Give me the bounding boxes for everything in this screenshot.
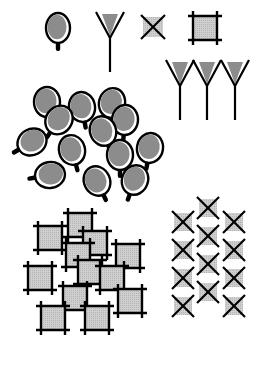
x-square-icon: [141, 15, 165, 39]
x-square-icon: [197, 281, 219, 303]
x-square-icon: [172, 267, 194, 289]
bead-icon: [25, 160, 67, 192]
x-square-icon: [172, 239, 194, 261]
x-square-icon: [223, 239, 245, 261]
x-square-grid: [172, 197, 245, 317]
diagram-canvas: [0, 0, 267, 365]
x-square-icon: [223, 295, 245, 317]
antibody-icon: [221, 60, 249, 120]
antibody-icon: [193, 60, 221, 120]
frame-square-cluster: [23, 208, 147, 335]
x-square-icon: [172, 211, 194, 233]
frame-square-icon: [80, 301, 114, 335]
antibody-group: [166, 60, 249, 120]
bead-cluster: [6, 85, 166, 207]
frame-square-icon: [36, 301, 70, 335]
antibody-icon: [96, 12, 124, 72]
x-square-icon: [223, 267, 245, 289]
diagram-svg: [0, 0, 267, 365]
antibody-icon: [166, 60, 194, 120]
x-square-icon: [223, 211, 245, 233]
bead-icon: [46, 13, 70, 51]
frame-square-icon: [23, 261, 57, 295]
x-square-icon: [197, 197, 219, 219]
frame-square-icon: [33, 221, 67, 255]
x-square-icon: [197, 253, 219, 275]
frame-square-icon: [188, 11, 222, 45]
frame-square-icon: [113, 284, 147, 318]
x-square-icon: [172, 295, 194, 317]
x-square-icon: [197, 225, 219, 247]
bead-icon: [6, 123, 52, 165]
